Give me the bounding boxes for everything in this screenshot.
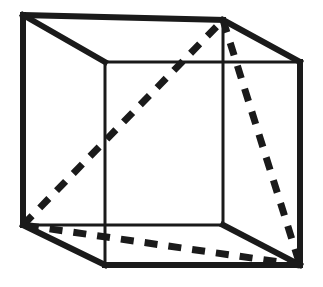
triangle-edge-rising: [23, 20, 223, 225]
inscribed-triangle: [23, 20, 300, 265]
top-right-connector-edge: [223, 20, 300, 62]
figure-canvas: [0, 0, 323, 287]
bottom-left-connector-edge: [23, 225, 105, 265]
cube-diagram: [0, 0, 323, 287]
top-left-connector-edge: [23, 15, 105, 62]
back-top-edge: [23, 15, 223, 20]
